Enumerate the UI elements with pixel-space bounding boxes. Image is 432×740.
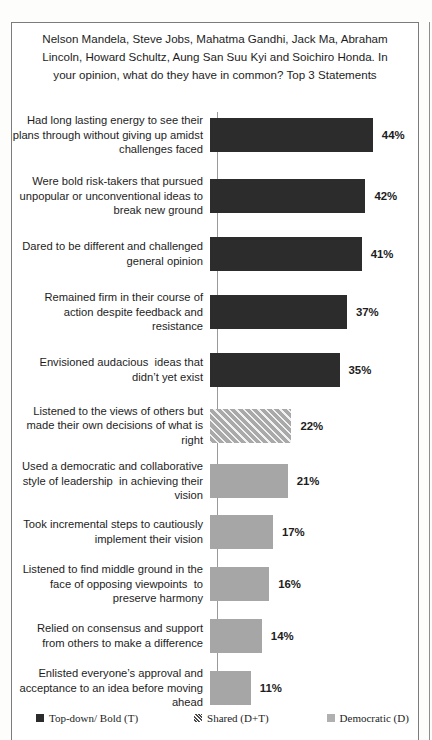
bar-category-label: Listened to the views of others but made… <box>12 404 210 448</box>
bar-row: Were bold risk-takers that pursued unpop… <box>12 166 418 226</box>
bar-track: 44% <box>210 108 418 162</box>
bar-topdown <box>210 237 362 271</box>
bar-category-label: Dared to be different and challenged gen… <box>12 239 210 268</box>
bar-value-label: 35% <box>340 364 372 376</box>
chart-plot-area: Had long lasting energy to see their pla… <box>12 108 418 700</box>
bar-category-label: Envisioned audacious ideas that didn’t y… <box>12 355 210 384</box>
bar-category-label: Remained firm in their course of action … <box>12 290 210 334</box>
bar-row: Envisioned audacious ideas that didn’t y… <box>12 345 418 395</box>
bar-track: 16% <box>210 558 418 610</box>
bar-category-label: Enlisted everyone’s approval and accepta… <box>12 666 210 710</box>
bar-value-label: 14% <box>262 630 294 642</box>
legend-label: Shared (D+T) <box>207 712 269 724</box>
legend-label: Top-down/ Bold (T) <box>49 712 138 724</box>
bar-value-label: 41% <box>362 248 394 260</box>
bar-track: 42% <box>210 166 418 226</box>
bar-row: Relied on consensus and support from oth… <box>12 613 418 659</box>
bar-value-label: 42% <box>365 190 397 202</box>
bar-category-label: Used a democratic and collaborative styl… <box>12 459 210 503</box>
legend-item-topdown: Top-down/ Bold (T) <box>36 712 138 724</box>
bar-track: 35% <box>210 345 418 395</box>
bar-topdown <box>210 118 373 152</box>
bar-category-label: Had long lasting energy to see their pla… <box>12 113 210 157</box>
bar-value-label: 17% <box>273 526 305 538</box>
legend-item-democratic: Democratic (D) <box>327 712 409 724</box>
bar-value-label: 21% <box>288 475 320 487</box>
bar-democratic <box>210 671 251 705</box>
chart-title: Nelson Mandela, Steve Jobs, Mahatma Gand… <box>34 30 396 85</box>
bar-democratic <box>210 567 269 601</box>
bar-row: Had long lasting energy to see their pla… <box>12 108 418 162</box>
bar-track: 22% <box>210 398 418 453</box>
bar-category-label: Took incremental steps to cautiously imp… <box>12 517 210 546</box>
bar-topdown <box>210 295 347 329</box>
bar-track: 21% <box>210 456 418 506</box>
bar-category-label: Listened to find middle ground in the fa… <box>12 562 210 606</box>
bar-topdown <box>210 353 340 387</box>
bar-democratic <box>210 464 288 498</box>
bar-row: Listened to find middle ground in the fa… <box>12 558 418 610</box>
bar-democratic <box>210 619 262 653</box>
bar-track: 14% <box>210 613 418 659</box>
legend-swatch-shared <box>194 714 202 722</box>
bar-value-label: 22% <box>291 420 323 432</box>
legend-swatch-topdown <box>36 714 44 722</box>
bar-track: 41% <box>210 229 418 279</box>
bar-topdown <box>210 179 365 213</box>
bar-value-label: 37% <box>347 306 379 318</box>
bar-row: Took incremental steps to cautiously imp… <box>12 508 418 556</box>
bar-category-label: Relied on consensus and support from oth… <box>12 621 210 650</box>
bar-shared <box>210 409 291 443</box>
page-right-rule <box>429 22 430 740</box>
bar-row: Used a democratic and collaborative styl… <box>12 456 418 506</box>
bar-row: Remained firm in their course of action … <box>12 283 418 341</box>
bar-row: Listened to the views of others but made… <box>12 398 418 453</box>
legend-item-shared: Shared (D+T) <box>194 712 269 724</box>
bar-value-label: 16% <box>269 578 301 590</box>
bar-track: 11% <box>210 660 418 716</box>
bar-value-label: 11% <box>251 682 282 694</box>
chart-page: Nelson Mandela, Steve Jobs, Mahatma Gand… <box>0 0 432 740</box>
bar-row: Dared to be different and challenged gen… <box>12 229 418 279</box>
bar-value-label: 44% <box>373 129 405 141</box>
legend-label: Democratic (D) <box>340 712 409 724</box>
bar-row: Enlisted everyone’s approval and accepta… <box>12 660 418 716</box>
chart-legend: Top-down/ Bold (T)Shared (D+T)Democratic… <box>12 712 418 724</box>
bar-democratic <box>210 515 273 549</box>
bar-track: 37% <box>210 283 418 341</box>
bar-track: 17% <box>210 508 418 556</box>
legend-swatch-democratic <box>327 714 335 722</box>
bar-category-label: Were bold risk-takers that pursued unpop… <box>12 174 210 218</box>
